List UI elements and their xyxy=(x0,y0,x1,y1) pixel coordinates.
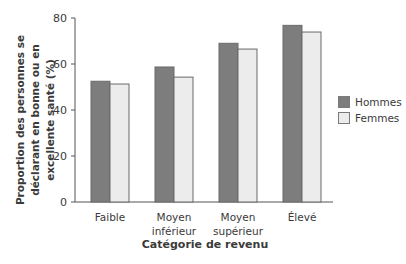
bar-hommes xyxy=(283,25,302,202)
x-tick-label: Moyen xyxy=(221,211,256,223)
legend-item-femmes: Femmes xyxy=(338,110,402,126)
y-tick-label: 80 xyxy=(53,12,67,25)
y-tick-label: 60 xyxy=(53,58,67,71)
bar-femmes xyxy=(238,49,257,202)
legend-label-femmes: Femmes xyxy=(355,112,399,124)
bar-chart: 020406080FaibleMoyeninférieurMoyensupéri… xyxy=(0,0,406,264)
bar-femmes xyxy=(110,84,129,202)
legend: Hommes Femmes xyxy=(338,94,402,126)
x-tick-label: supérieur xyxy=(213,225,264,237)
bar-hommes xyxy=(91,81,110,202)
x-tick-label: Moyen xyxy=(157,211,192,223)
x-tick-label: inférieur xyxy=(152,225,197,237)
legend-swatch-hommes xyxy=(338,96,350,108)
y-tick-label: 20 xyxy=(53,150,67,163)
bar-hommes xyxy=(155,67,174,202)
x-axis-label: Catégorie de revenu xyxy=(60,238,350,251)
x-tick-label: Élevé xyxy=(288,211,317,223)
bar-hommes xyxy=(219,43,238,202)
legend-label-hommes: Hommes xyxy=(355,96,402,108)
bar-femmes xyxy=(302,32,321,202)
legend-item-hommes: Hommes xyxy=(338,94,402,110)
y-tick-label: 40 xyxy=(53,104,67,117)
legend-swatch-femmes xyxy=(338,112,350,124)
x-tick-label: Faible xyxy=(95,211,125,223)
y-tick-label: 0 xyxy=(60,196,67,209)
bar-femmes xyxy=(174,77,193,202)
